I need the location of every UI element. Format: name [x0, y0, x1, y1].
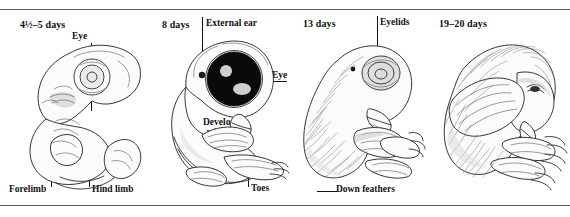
bottom-rule [0, 205, 570, 206]
panel-4-5-days: 4½–5 days Eye Forelimb Hind limb [0, 11, 152, 203]
panel-8-days: 8 days External ear Eye Beak Developing … [152, 11, 295, 203]
embryo-drawing-4-5-days [10, 33, 150, 193]
embryo-drawing-19-20-days [431, 25, 570, 200]
embryo-drawing-8-days [158, 31, 290, 193]
embryo-development-figure: 4½–5 days Eye Forelimb Hind limb [0, 0, 570, 217]
stage-label-panel-1: 4½–5 days [20, 19, 65, 30]
panel-13-days: 13 days Eyelids Down feathers [295, 11, 431, 203]
top-rule [0, 9, 570, 10]
stage-label-panel-2: 8 days [162, 19, 190, 30]
embryo-drawing-13-days [297, 27, 427, 197]
label-external-ear: External ear [206, 19, 257, 29]
panel-19-20-days: 19–20 days [431, 11, 570, 203]
